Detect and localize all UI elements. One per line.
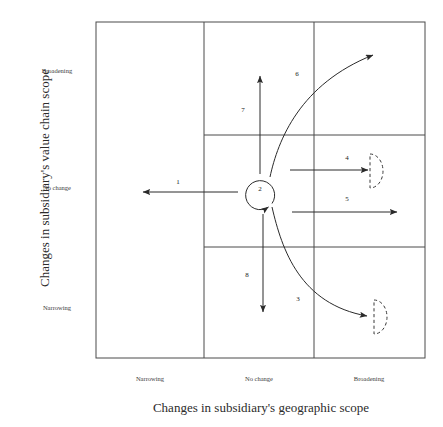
- y-tick-broadening: Broadening: [22, 67, 92, 74]
- x-tick-narrowing: Narrowing: [110, 375, 190, 382]
- arrow-label-1: 1: [171, 178, 185, 186]
- arrow-3-dashed-target: [374, 300, 387, 334]
- y-axis-title: Changes in subsidiary's value chain scop…: [37, 38, 53, 318]
- x-tick-no-change: No change: [219, 375, 299, 382]
- arrow-label-3: 3: [291, 295, 305, 303]
- arrow-4-dashed-target: [370, 154, 383, 188]
- x-axis-title: Changes in subsidiary's geographic scope: [96, 400, 426, 416]
- arrow-label-8: 8: [240, 271, 254, 279]
- arrow-label-6: 6: [290, 70, 304, 78]
- diagram-canvas: [0, 0, 443, 427]
- arrow-6-curve: [270, 55, 373, 177]
- diagram-page: Changes in subsidiary's value chain scop…: [0, 0, 443, 427]
- arrow-label-2: 2: [253, 185, 267, 193]
- arrow-3-curve: [272, 207, 367, 316]
- arrow-label-7: 7: [236, 106, 250, 114]
- y-tick-narrowing: Narrowing: [22, 304, 92, 311]
- arrow-label-4: 4: [340, 154, 354, 162]
- x-tick-broadening: Broadening: [329, 375, 409, 382]
- y-tick-no-change: No change: [22, 184, 92, 191]
- arrow-label-5: 5: [340, 195, 354, 203]
